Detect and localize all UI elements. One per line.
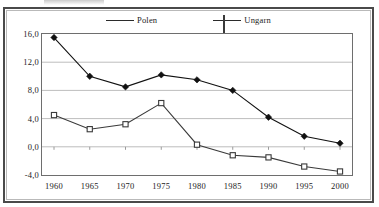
data-point-filled-diamond xyxy=(337,140,343,146)
scan-artifact xyxy=(44,0,104,5)
series-line-ungarn xyxy=(54,103,340,171)
legend-swatch-ungarn xyxy=(213,15,241,25)
data-point-open-square xyxy=(51,112,56,117)
legend-entry-ungarn: Ungarn xyxy=(213,15,271,25)
x-tick-label: 1990 xyxy=(249,181,289,191)
y-axis-tick-labels: 16,012,08,04,00,0-4,0 xyxy=(3,33,39,176)
x-tick-label: 2000 xyxy=(320,181,360,191)
x-tick-label: 1995 xyxy=(284,181,324,191)
y-tick-label: 0,0 xyxy=(5,142,39,152)
open-square-marker-icon xyxy=(223,16,225,34)
chart-canvas xyxy=(42,34,352,175)
data-point-open-square xyxy=(123,122,128,127)
y-tick-label: 8,0 xyxy=(5,85,39,95)
data-point-open-square xyxy=(230,153,235,158)
legend-label-ungarn: Ungarn xyxy=(244,15,271,25)
data-point-filled-diamond xyxy=(122,84,128,90)
data-point-filled-diamond xyxy=(194,77,200,83)
data-point-open-square xyxy=(194,142,199,147)
y-tick-label: 16,0 xyxy=(5,29,39,39)
chart-legend: Polen Ungarn xyxy=(6,12,371,28)
x-tick-label: 1980 xyxy=(177,181,217,191)
legend-entry-polen: Polen xyxy=(106,15,157,25)
x-tick-label: 1985 xyxy=(213,181,253,191)
data-point-open-square xyxy=(302,164,307,169)
y-tick-label: 4,0 xyxy=(5,114,39,124)
legend-label-polen: Polen xyxy=(137,15,157,25)
data-point-filled-diamond xyxy=(301,133,307,139)
x-tick-label: 1975 xyxy=(141,181,181,191)
x-tick-label: 1965 xyxy=(70,181,110,191)
data-point-open-square xyxy=(87,127,92,132)
x-axis-tick-labels: 196019651970197519801985199019952000 xyxy=(41,181,353,195)
legend-line-icon xyxy=(213,20,241,21)
y-tick-label: -4,0 xyxy=(5,170,39,180)
data-point-filled-diamond xyxy=(158,72,164,78)
data-point-open-square xyxy=(159,100,164,105)
data-point-open-square xyxy=(337,169,342,174)
legend-swatch-polen xyxy=(106,15,134,25)
y-tick-label: 12,0 xyxy=(5,57,39,67)
plot-area xyxy=(41,33,353,176)
x-tick-label: 1960 xyxy=(34,181,74,191)
data-point-open-square xyxy=(266,155,271,160)
legend-line-icon xyxy=(106,20,134,21)
x-tick-label: 1970 xyxy=(106,181,146,191)
